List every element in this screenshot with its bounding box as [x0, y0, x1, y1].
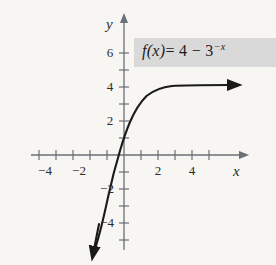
y-tick-label-neg4: −4: [97, 215, 117, 231]
x-tick-label-neg2: −2: [69, 163, 89, 179]
function-graph-figure: f(x)= 4 − 3−x y x −4 −2 2 4 6 4 2 −2 −4: [0, 0, 276, 265]
x-axis-label: x: [233, 163, 240, 180]
y-tick-label-4: 4: [103, 79, 117, 95]
x-tick-label-neg4: −4: [35, 163, 55, 179]
y-axis-label: y: [106, 16, 113, 33]
x-tick-label-2: 2: [151, 163, 165, 179]
formula-exponent: −x: [214, 41, 226, 52]
x-axis: [31, 150, 240, 160]
y-tick-label-2: 2: [103, 113, 117, 129]
y-tick-label-neg2: −2: [97, 181, 117, 197]
function-formula-label: f(x)= 4 − 3−x: [142, 41, 225, 60]
formula-base: 3: [205, 42, 213, 59]
formula-lhs: f(x): [142, 42, 165, 59]
formula-minus: −: [192, 42, 201, 59]
y-tick-label-6: 6: [103, 45, 117, 61]
x-tick-label-4: 4: [185, 163, 199, 179]
formula-constant: 4: [179, 42, 187, 59]
formula-equals: =: [165, 42, 174, 59]
